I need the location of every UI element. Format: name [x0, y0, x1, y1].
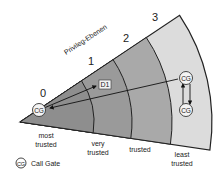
label-least: least — [175, 151, 190, 158]
call-gate-node-ring3-bottom: CG — [180, 104, 193, 117]
legend: CG Call Gate — [16, 158, 60, 168]
legend-label: Call Gate — [31, 160, 60, 167]
label-least-trusted: trusted — [171, 160, 193, 167]
descriptor-node-d1: D1 — [99, 80, 111, 89]
level-number-1: 1 — [88, 55, 94, 67]
level-number-2: 2 — [123, 32, 129, 44]
call-gate-node-ring3-top: CG — [180, 72, 193, 85]
label-very: very — [91, 140, 105, 148]
level-number-0: 0 — [40, 87, 46, 99]
call-gate-icon: CG — [181, 75, 191, 82]
label-most-trusted: trusted — [35, 141, 57, 148]
call-gate-icon: CG — [17, 161, 25, 167]
label-trusted: trusted — [129, 146, 151, 153]
call-gate-icon: CG — [34, 107, 44, 114]
label-most: most — [38, 132, 53, 139]
call-gate-icon: CG — [181, 107, 191, 114]
call-gate-node-ring0: CG — [33, 104, 46, 117]
level-number-3: 3 — [152, 11, 158, 23]
diagram-title: Privileg-Ebenen — [63, 23, 109, 57]
label-very-trusted: trusted — [87, 149, 109, 156]
svg-text:D1: D1 — [101, 81, 110, 88]
privilege-rings-diagram: CG D1 CG CG 0 1 2 3 Privileg-Ebenen most… — [0, 0, 222, 179]
